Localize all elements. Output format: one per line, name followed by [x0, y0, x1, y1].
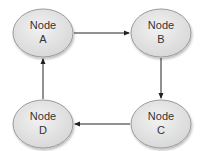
node-b: Node B	[131, 9, 191, 57]
node-d-label-line1: Node	[30, 110, 56, 122]
node-b-label-line1: Node	[148, 19, 174, 31]
node-d: Node D	[13, 100, 73, 148]
node-d-label-line2: D	[39, 124, 47, 136]
node-c-label-line1: Node	[148, 110, 174, 122]
node-c: Node C	[131, 100, 191, 148]
node-a: Node A	[13, 9, 73, 57]
node-b-label-line2: B	[157, 33, 164, 45]
node-a-label-line2: A	[39, 33, 47, 45]
node-a-label-line1: Node	[30, 19, 56, 31]
node-c-label-line2: C	[157, 124, 165, 136]
cycle-diagram: Node A Node B Node C Node D	[0, 0, 204, 151]
